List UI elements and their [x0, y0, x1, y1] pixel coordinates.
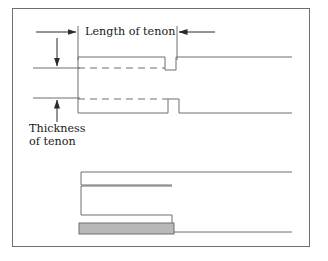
dimension-arrows	[36, 32, 215, 122]
label-thickness-line-1: Thickness	[29, 122, 86, 135]
label-length-of-tenon: Length of tenon	[85, 25, 175, 38]
label-thickness-line-2: of tenon	[29, 135, 86, 148]
tenon-top-outline	[78, 57, 292, 70]
figure-page: Length of tenon Thickness of tenon	[0, 0, 328, 261]
upper-view-tenon-profile	[78, 57, 292, 113]
label-thickness-of-tenon: Thickness of tenon	[29, 122, 86, 148]
shaded-tenon-bar	[79, 223, 174, 234]
tenon-bottom-outline	[78, 99, 292, 113]
mortise-upper-rail-outline	[81, 172, 292, 185]
lower-view-mortise-assembly	[79, 172, 292, 234]
